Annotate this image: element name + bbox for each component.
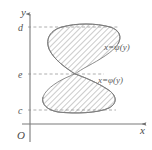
x-axis-label: x xyxy=(139,124,145,136)
origin-label: O xyxy=(17,129,25,141)
y-tick-label-e: e xyxy=(18,69,23,80)
lower-curve-label: x=φ(y) xyxy=(97,75,123,85)
figure-container: y x O d e c x=ψ(y) x=φ(y) xyxy=(0,0,152,150)
region-between-curves-figure: y x O d e c x=ψ(y) x=φ(y) xyxy=(0,0,152,150)
y-tick-label-c: c xyxy=(18,105,23,116)
y-axis-label: y xyxy=(20,6,26,18)
upper-curve-label: x=ψ(y) xyxy=(103,42,130,52)
